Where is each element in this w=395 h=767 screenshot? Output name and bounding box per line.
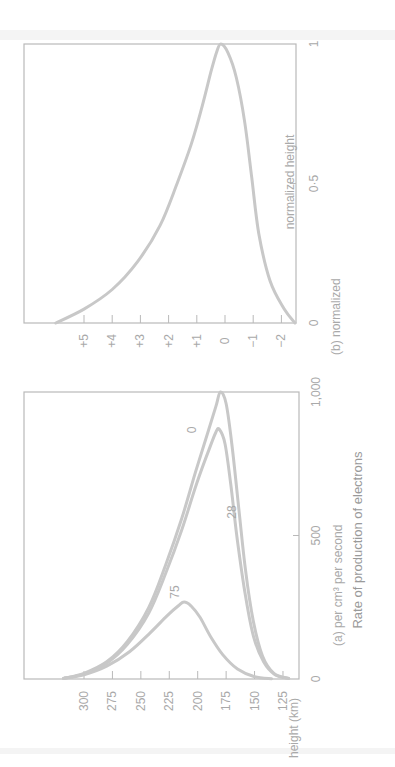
- height-tick-label: 300: [77, 691, 91, 711]
- height-tick-label: 200: [191, 691, 205, 711]
- fraction-tick-label: 1: [307, 40, 321, 47]
- height-tick-label: 150: [248, 691, 262, 711]
- panel-b-height-ticks: +5+4+3+2+10−1−2: [77, 315, 288, 348]
- normalized-height-tick-label: +5: [77, 334, 91, 348]
- height-tick-label: 175: [219, 691, 233, 711]
- scan-shade-top: [0, 30, 395, 40]
- scan-shade-bottom: [0, 748, 395, 754]
- normalized-height-tick-label: +3: [133, 334, 147, 348]
- panel-a-ylabel: height (km): [287, 698, 301, 758]
- fraction-tick-label: 0: [307, 319, 321, 326]
- normalized-height-tick-label: −1: [246, 334, 260, 348]
- height-tick-label: 275: [105, 691, 119, 711]
- curve-label-75: 75: [168, 585, 182, 599]
- figure: +5+4+3+2+10−1−2 00·51 (b) normalized nor…: [0, 0, 395, 767]
- curve-label-0: 0: [185, 426, 199, 433]
- normalized-height-tick-label: +2: [162, 334, 176, 348]
- panel-b-ylabel: normalized height: [283, 134, 297, 229]
- panel-a: 300275250225200175150125 05001,000 0 28 …: [24, 377, 345, 758]
- height-tick-label: 225: [162, 691, 176, 711]
- normalized-height-tick-label: +4: [105, 334, 119, 348]
- panel-b-curve: [56, 44, 295, 323]
- rate-axis-title: Rate of production of electrons: [350, 451, 365, 629]
- panel-a-curve-28: [64, 428, 289, 678]
- panel-b-caption: (b) normalized: [329, 278, 343, 355]
- fraction-tick-label: 0·5: [307, 175, 321, 193]
- normalized-height-tick-label: +1: [190, 334, 204, 348]
- curve-label-28: 28: [225, 505, 239, 519]
- panel-b-frame: [24, 44, 296, 323]
- rate-tick-label: 500: [309, 525, 323, 545]
- rate-tick-label: 1,000: [309, 377, 323, 407]
- panel-a-caption: (a) per cm³ per second: [331, 525, 345, 646]
- normalized-height-tick-label: 0: [218, 337, 232, 344]
- height-tick-label: 250: [134, 691, 148, 711]
- rate-tick-label: 0: [309, 675, 323, 682]
- normalized-height-tick-label: −2: [274, 334, 288, 348]
- panel-a-curve-0: [64, 392, 289, 678]
- panel-a-rate-ticks: 05001,000: [293, 377, 323, 683]
- panel-b: +5+4+3+2+10−1−2 00·51 (b) normalized nor…: [24, 40, 343, 355]
